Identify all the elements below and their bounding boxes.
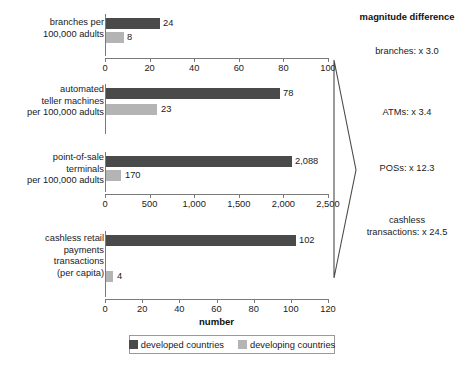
axis-tick-label: 1,000 bbox=[183, 199, 206, 210]
chart-figure: branches per 100,000 adults 24 8 0 20 40… bbox=[0, 0, 462, 372]
chart-panel-branches: branches per 100,000 adults 24 8 0 20 40… bbox=[0, 14, 340, 72]
axis-tick bbox=[291, 299, 292, 303]
legend-swatch-developing-icon bbox=[238, 340, 247, 349]
bar-value-developed: 2,088 bbox=[295, 156, 318, 167]
legend-swatch-developed-icon bbox=[129, 340, 138, 349]
axis-tick-label: 0 bbox=[102, 199, 107, 210]
x-axis-pos: 0 500 1,000 1,500 2,000 2,500 bbox=[105, 194, 328, 195]
plot-area-cashless: 102 4 bbox=[105, 231, 329, 297]
axis-tick-label: 0 bbox=[102, 63, 107, 74]
axis-tick-label: 80 bbox=[249, 304, 259, 315]
axis-tick bbox=[105, 194, 106, 198]
x-axis-cashless: 0 20 40 60 80 100 120 bbox=[105, 299, 328, 300]
bar-value-developed: 78 bbox=[283, 88, 293, 99]
axis-tick-label: 20 bbox=[144, 63, 154, 74]
axis-tick bbox=[283, 58, 284, 62]
axis-tick-label: 20 bbox=[137, 304, 147, 315]
axis-tick-label: 40 bbox=[189, 63, 199, 74]
axis-tick bbox=[283, 194, 284, 198]
bar-value-developed: 24 bbox=[163, 18, 173, 29]
magnitude-difference-heading: magnitude difference bbox=[352, 11, 462, 22]
axis-tick-label: 120 bbox=[320, 304, 336, 315]
axis-tick bbox=[328, 58, 329, 62]
bar-developing bbox=[106, 271, 113, 282]
bar-developed bbox=[106, 18, 160, 29]
axis-tick bbox=[150, 58, 151, 62]
panel-label-line: automated bbox=[0, 84, 104, 96]
magnitude-note-line: cashless bbox=[352, 215, 462, 227]
axis-tick bbox=[328, 299, 329, 303]
axis-tick bbox=[105, 58, 106, 62]
bar-developed bbox=[106, 88, 280, 99]
axis-tick-label: 60 bbox=[234, 63, 244, 74]
panel-label-line: cashless retail bbox=[0, 233, 104, 245]
axis-tick bbox=[254, 299, 255, 303]
panel-label-branches: branches per 100,000 adults bbox=[0, 17, 104, 40]
panel-label-line: payments bbox=[0, 245, 104, 257]
panel-label-line: 100,000 adults bbox=[0, 29, 104, 41]
axis-tick-label: 60 bbox=[211, 304, 221, 315]
panel-label-cashless: cashless retail payments transactions (p… bbox=[0, 233, 104, 279]
plot-area-pos: 2,088 170 bbox=[105, 152, 329, 192]
axis-tick-label: 2,000 bbox=[272, 199, 295, 210]
axis-tick bbox=[105, 299, 106, 303]
axis-tick bbox=[150, 194, 151, 198]
axis-tick bbox=[142, 299, 143, 303]
panel-label-line: branches per bbox=[0, 17, 104, 29]
axis-tick bbox=[239, 58, 240, 62]
axis-tick-label: 1,500 bbox=[227, 199, 250, 210]
bar-developing bbox=[106, 32, 124, 43]
magnitude-note-atms: ATMs: x 3.4 bbox=[352, 107, 462, 119]
axis-tick bbox=[194, 194, 195, 198]
panel-label-line: terminals bbox=[0, 164, 104, 176]
panel-label-atms: automated teller machines per 100,000 ad… bbox=[0, 84, 104, 119]
legend-item-developed: developed countries bbox=[129, 340, 224, 350]
magnitude-note-pos: POSs: x 12.3 bbox=[352, 163, 462, 175]
legend-item-developing: developing countries bbox=[238, 340, 335, 350]
bar-developing bbox=[106, 170, 121, 181]
plot-area-branches: 24 8 bbox=[105, 14, 329, 56]
magnitude-note-line: transactions: x 24.5 bbox=[352, 227, 462, 239]
axis-tick bbox=[179, 299, 180, 303]
panel-label-line: (per capita) bbox=[0, 268, 104, 280]
bar-developing bbox=[106, 104, 157, 115]
chart-panel-atms: automated teller machines per 100,000 ad… bbox=[0, 84, 340, 144]
panel-label-line: point-of-sale bbox=[0, 152, 104, 164]
axis-tick bbox=[239, 194, 240, 198]
chart-panel-pos: point-of-sale terminals per 100,000 adul… bbox=[0, 152, 340, 214]
bar-value-developed: 102 bbox=[299, 235, 315, 246]
axis-tick-label: 40 bbox=[174, 304, 184, 315]
axis-tick bbox=[328, 194, 329, 198]
panel-label-line: per 100,000 adults bbox=[0, 175, 104, 187]
x-axis-title: number bbox=[105, 316, 328, 327]
panel-label-line: transactions bbox=[0, 256, 104, 268]
bar-value-developing: 8 bbox=[127, 32, 132, 43]
bar-value-developing: 170 bbox=[125, 170, 141, 181]
plot-area-atms: 78 23 bbox=[105, 84, 329, 134]
magnitude-difference-panel: magnitude difference branches: x 3.0 ATM… bbox=[352, 0, 462, 300]
bar-value-developing: 23 bbox=[161, 104, 171, 115]
x-axis-branches: 0 20 40 60 80 100 bbox=[105, 58, 328, 59]
bar-value-developing: 4 bbox=[117, 271, 122, 282]
axis-tick-label: 0 bbox=[102, 304, 107, 315]
axis-tick bbox=[194, 58, 195, 62]
panel-label-line: teller machines bbox=[0, 96, 104, 108]
axis-tick-label: 80 bbox=[278, 63, 288, 74]
magnitude-note-cashless: cashless transactions: x 24.5 bbox=[352, 215, 462, 238]
panel-label-pos: point-of-sale terminals per 100,000 adul… bbox=[0, 152, 104, 187]
chart-panel-cashless: cashless retail payments transactions (p… bbox=[0, 231, 340, 321]
axis-tick-label: 100 bbox=[283, 304, 299, 315]
bar-developed bbox=[106, 156, 292, 167]
panel-label-line: per 100,000 adults bbox=[0, 107, 104, 119]
legend-label-developed: developed countries bbox=[141, 340, 224, 350]
axis-tick bbox=[217, 299, 218, 303]
legend-label-developing: developing countries bbox=[250, 340, 335, 350]
magnitude-note-branches: branches: x 3.0 bbox=[352, 46, 462, 58]
bar-developed bbox=[106, 235, 296, 246]
axis-tick-label: 500 bbox=[142, 199, 158, 210]
chart-legend: developed countries developing countries bbox=[129, 335, 335, 354]
